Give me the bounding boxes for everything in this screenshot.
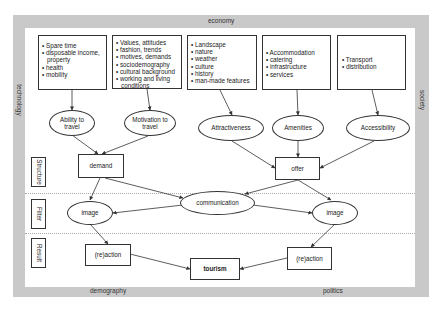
- list-item: Spare time: [42, 42, 103, 49]
- box-personal-resources: Spare time disposable income, property h…: [38, 35, 107, 90]
- list-item: motives, demands: [116, 53, 178, 60]
- ellipse-accessibility: Accessibility: [346, 115, 410, 141]
- list-item: cultural background: [116, 68, 178, 75]
- list-item: services: [266, 71, 327, 78]
- ellipse-label: Motivation to travel: [128, 116, 172, 130]
- box-motivation-factors: Values, attitudes fashion, trends motive…: [112, 35, 182, 89]
- list-item: Transport: [342, 56, 401, 63]
- list-item: sociodemography: [116, 61, 178, 68]
- node-reaction-demand: (re)action: [85, 244, 131, 266]
- row-label-structure: Structure: [31, 157, 46, 187]
- ellipse-label: communication: [196, 199, 238, 206]
- node-offer: offer: [275, 157, 320, 180]
- list-item: catering: [266, 56, 327, 63]
- node-label: (re)action: [95, 251, 122, 258]
- ellipse-label: image: [326, 209, 343, 216]
- ellipse-image-offer: image: [312, 201, 358, 225]
- node-reaction-offer: (re)action: [287, 247, 332, 270]
- ellipse-communication: communication: [180, 191, 255, 215]
- list-item: distribution: [342, 63, 401, 70]
- list-item: infrastructure: [266, 63, 327, 70]
- node-demand: demand: [78, 154, 124, 178]
- ellipse-motivation-to-travel: Motivation to travel: [124, 110, 176, 136]
- list-item: nature: [191, 48, 253, 55]
- list-item: weather: [191, 55, 253, 62]
- row-label-filter: Filter: [31, 199, 46, 229]
- row-label-text: Structure: [35, 159, 42, 185]
- ellipse-label: Amenities: [284, 124, 312, 131]
- list-item: mobility: [42, 71, 103, 78]
- ellipse-label: Attractiveness: [211, 124, 251, 131]
- ellipse-ability-to-travel: Ability to travel: [49, 110, 95, 136]
- box-accessibility-factors: Transport distribution: [337, 35, 406, 90]
- list-item: working and living conditions: [116, 75, 178, 89]
- list-item: Accommodation: [266, 49, 327, 56]
- ellipse-amenities: Amenities: [272, 115, 324, 141]
- list-item: health: [42, 64, 103, 71]
- box-amenities-factors: Accommodation catering infrastructure se…: [262, 35, 331, 90]
- row-label-text: Result: [35, 244, 42, 262]
- list-item: Landscape: [191, 41, 253, 48]
- ellipse-label: Accessibility: [361, 124, 395, 131]
- list-item: fashion, trends: [116, 46, 178, 53]
- node-label: offer: [291, 165, 304, 172]
- list-item: Values, attitudes: [116, 39, 178, 46]
- ellipse-label: image: [81, 209, 98, 216]
- ellipse-attractiveness: Attractiveness: [198, 115, 264, 141]
- list-item: disposable income, property: [42, 49, 103, 63]
- ellipse-image-demand: image: [67, 201, 113, 225]
- node-label: (re)action: [296, 255, 323, 262]
- list-item: man-made features: [191, 77, 253, 84]
- node-label: demand: [90, 162, 113, 169]
- row-label-text: Filter: [35, 207, 42, 221]
- node-tourism: tourism: [190, 258, 240, 280]
- ellipse-label: Ability to travel: [57, 116, 87, 130]
- box-attractiveness-factors: Landscape nature weather culture history…: [187, 35, 257, 90]
- list-item: history: [191, 70, 253, 77]
- node-label: tourism: [203, 265, 226, 272]
- row-label-result: Result: [31, 238, 46, 268]
- list-item: culture: [191, 63, 253, 70]
